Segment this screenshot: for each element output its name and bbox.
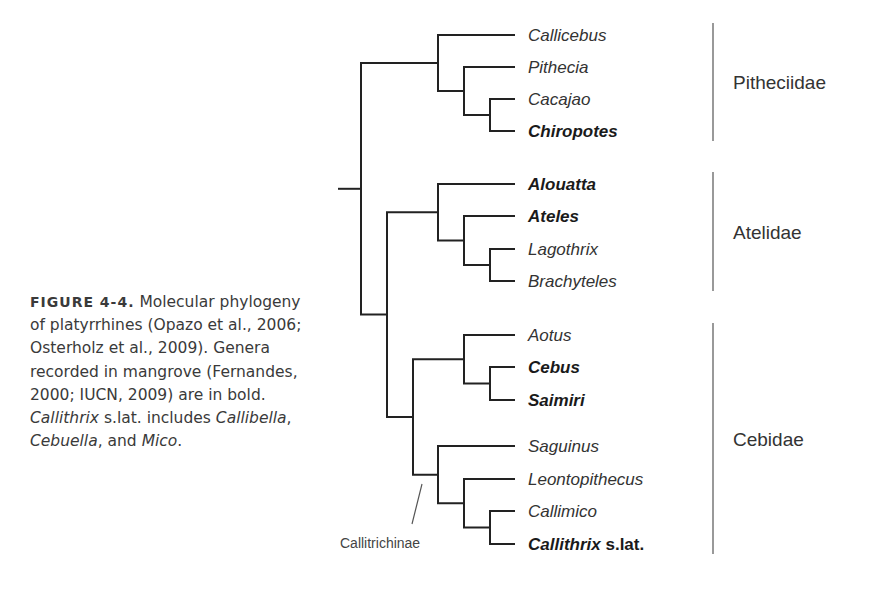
leaf-label: Saguinus xyxy=(528,437,599,456)
branch xyxy=(438,35,515,91)
leaf-label: Cebus xyxy=(528,358,580,377)
leaf-labels: CallicebusPitheciaCacajaoChiropotesAloua… xyxy=(527,26,644,554)
leaf-label: Callicebus xyxy=(528,26,607,45)
family-label: Pitheciidae xyxy=(733,72,826,93)
branch xyxy=(438,446,515,503)
family-brackets: PitheciidaeAtelidaeCebidae xyxy=(713,23,826,554)
leaf-label: Alouatta xyxy=(527,175,596,194)
branch xyxy=(438,184,515,241)
branch xyxy=(490,511,515,544)
callitrichinae-pointer xyxy=(412,484,422,524)
leaf-label: Ateles xyxy=(527,207,579,226)
leaf-label: Callimico xyxy=(528,502,597,521)
leaf-label: Aotus xyxy=(527,326,572,345)
branch xyxy=(490,99,515,131)
leaf-label: Leontopithecus xyxy=(528,470,644,489)
leaf-label: Chiropotes xyxy=(528,122,618,141)
tree-branches xyxy=(338,35,515,544)
family-label: Atelidae xyxy=(733,222,802,243)
family-label: Cebidae xyxy=(733,429,804,450)
callitrichinae-label: Callitrichinae xyxy=(340,535,420,551)
branch xyxy=(490,249,515,281)
leaf-label: Callithrix s.lat. xyxy=(528,535,644,554)
leaf-label: Pithecia xyxy=(528,58,588,77)
leaf-label: Brachyteles xyxy=(528,272,617,291)
branch xyxy=(361,63,438,315)
branch xyxy=(490,367,515,400)
phylogeny-tree: CallicebusPitheciaCacajaoChiropotesAloua… xyxy=(0,0,889,595)
leaf-label: Saimiri xyxy=(528,391,586,410)
leaf-label: Lagothrix xyxy=(528,240,598,259)
leaf-label: Cacajao xyxy=(528,90,590,109)
